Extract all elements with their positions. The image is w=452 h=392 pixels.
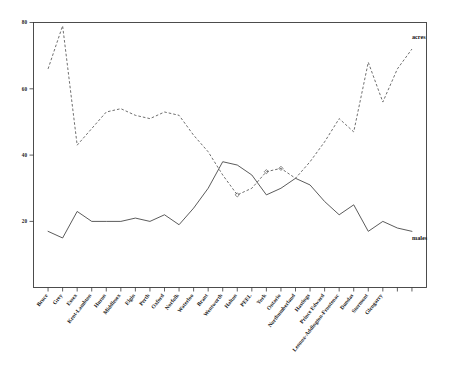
x-axis-category-labels: BruceGreyEssexKent-LambtonHuronMiddlesex… [35,292,383,353]
x-axis-ticks [48,288,412,292]
chart-container: 80 60 40 20 acres males BruceGreyEssexKe… [0,0,452,392]
plot-frame [34,23,427,288]
x-category-label: Elgin [124,292,137,306]
y-tick-label-80: 80 [22,19,28,25]
x-category-label: York [255,292,268,306]
x-category-label: Essex [65,292,78,306]
y-tick-label-60: 60 [22,86,28,92]
x-category-label: Bruce [35,292,49,307]
y-tick-label-20: 20 [22,218,28,224]
x-category-label: Brant [196,292,209,307]
y-tick-label-40: 40 [22,152,28,158]
series-label-males: males [412,234,428,241]
x-category-label: Perth [138,292,151,307]
x-category-label: PEEL [239,292,253,307]
series-line-males [48,162,412,238]
y-axis-ticks: 80 60 40 20 [22,19,34,224]
line-chart: 80 60 40 20 acres males BruceGreyEssexKe… [0,0,452,392]
x-category-label: Northumberland [266,292,296,328]
x-category-label: Grey [51,292,63,305]
series-label-acres: acres [412,33,426,40]
series-line-acres [48,26,412,195]
x-category-label: Halton [223,292,238,309]
